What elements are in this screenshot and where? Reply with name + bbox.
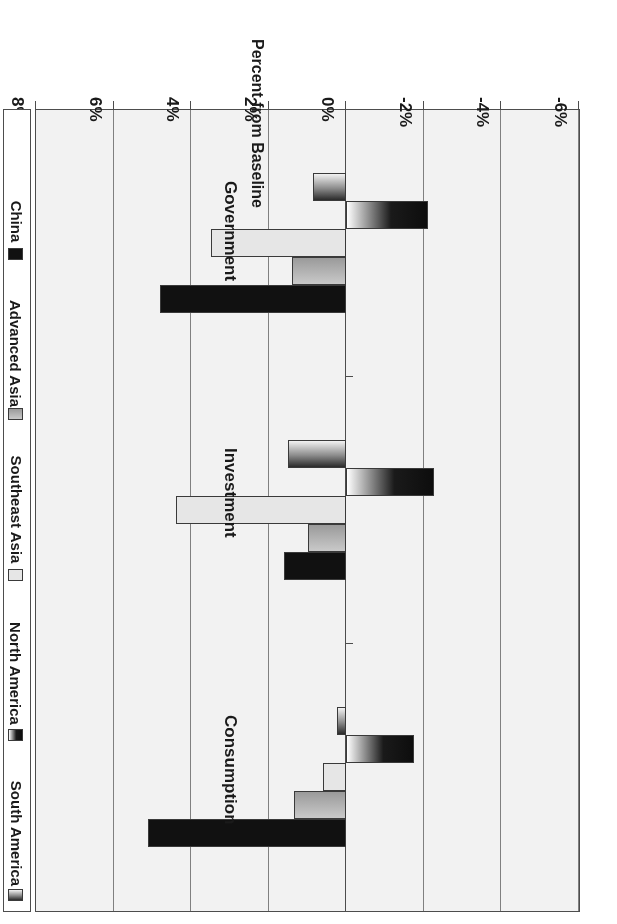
legend-item[interactable]: South America: [2, 751, 30, 911]
category-label-consumption: Consumption: [220, 716, 240, 826]
bar-row: [36, 469, 579, 497]
bar-south-america[interactable]: [337, 708, 347, 736]
bar-advanced-asia[interactable]: [292, 258, 346, 286]
bar-row: [36, 525, 579, 553]
axis-tick-label: 6%: [85, 97, 105, 122]
legend-item[interactable]: Southeast Asia: [2, 430, 30, 590]
bar-north-america[interactable]: [346, 736, 414, 764]
axis-tick: [35, 101, 36, 109]
legend-item[interactable]: China: [2, 110, 30, 270]
bar-row: [36, 553, 579, 581]
bar-row: [36, 736, 579, 764]
bar-row: [36, 230, 579, 258]
bar-north-america[interactable]: [346, 202, 427, 230]
plot-background: ConsumptionInvestmentGovernment: [35, 109, 580, 912]
bar-row: [36, 792, 579, 820]
legend-swatch-advanced-asia: [9, 408, 24, 420]
bar-row: [36, 820, 579, 848]
bar-row: [36, 764, 579, 792]
chart-screenshot: ConsumptionInvestmentGovernment -6%-4%-2…: [0, 0, 617, 924]
category-label-government: Government: [220, 182, 240, 282]
bar-china[interactable]: [160, 286, 346, 314]
category-tick: [346, 643, 353, 644]
axis-tick: [345, 101, 346, 109]
legend-swatch-china: [9, 248, 24, 260]
bar-south-america[interactable]: [313, 174, 346, 202]
bar-row: [36, 708, 579, 736]
bar-advanced-asia[interactable]: [308, 525, 347, 553]
axis-tick-label: 0%: [317, 97, 337, 122]
axis-tick: [578, 101, 579, 109]
legend-item[interactable]: Advanced Asia: [2, 270, 30, 430]
bar-row: [36, 497, 579, 525]
bar-china[interactable]: [149, 820, 347, 848]
legend-swatch-north-america: [9, 729, 24, 741]
axis-tick: [268, 101, 269, 109]
axis-tick-label: -4%: [472, 97, 492, 127]
legend-label: Advanced Asia: [8, 300, 25, 407]
category-tick: [346, 376, 353, 377]
bar-north-america[interactable]: [346, 469, 433, 497]
bar-row: [36, 174, 579, 202]
bar-southeast-asia[interactable]: [176, 497, 347, 525]
bar-southeast-asia[interactable]: [323, 764, 346, 792]
axis-tick-label: 4%: [162, 97, 182, 122]
legend-label: South America: [8, 781, 25, 886]
bar-group: [36, 110, 579, 377]
axis-tick: [423, 101, 424, 109]
chart-canvas: ConsumptionInvestmentGovernment -6%-4%-2…: [0, 0, 617, 924]
legend: ChinaAdvanced AsiaSoutheast AsiaNorth Am…: [3, 109, 31, 912]
bar-row: [36, 202, 579, 230]
bar-south-america[interactable]: [288, 441, 346, 469]
category-label-investment: Investment: [220, 449, 240, 539]
axis-tick-label: -6%: [550, 97, 570, 127]
bar-row: [36, 441, 579, 469]
axis-tick: [500, 101, 501, 109]
axis-tick: [113, 101, 114, 109]
axis-title: Percent from Baseline: [248, 39, 266, 208]
legend-swatch-south-america: [9, 889, 24, 901]
legend-label: Southeast Asia: [8, 456, 25, 564]
bar-china[interactable]: [284, 553, 346, 581]
legend-label: China: [7, 201, 24, 243]
axis-tick: [190, 101, 191, 109]
bar-row: [36, 286, 579, 314]
legend-swatch-southeast-asia: [9, 569, 24, 581]
bar-advanced-asia[interactable]: [294, 792, 346, 820]
bar-row: [36, 258, 579, 286]
plot-area: ConsumptionInvestmentGovernment: [35, 109, 580, 912]
bar-group: [36, 377, 579, 644]
bar-group: [36, 644, 579, 911]
legend-item[interactable]: North America: [2, 591, 30, 751]
axis-tick-label: -2%: [395, 97, 415, 127]
legend-label: North America: [8, 622, 25, 725]
